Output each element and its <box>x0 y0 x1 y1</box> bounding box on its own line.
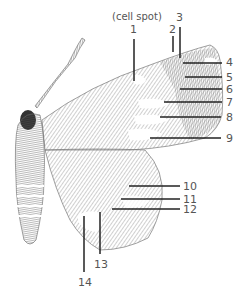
cell-spot-note: (cell spot) <box>112 11 162 22</box>
label-14: 14 <box>78 277 92 288</box>
label-8: 8 <box>226 112 233 123</box>
label-3: 3 <box>176 12 183 23</box>
label-12: 12 <box>183 204 197 215</box>
label-6: 6 <box>226 84 233 95</box>
label-9: 9 <box>226 133 233 144</box>
label-5: 5 <box>226 72 233 83</box>
label-4: 4 <box>226 57 233 68</box>
label-10: 10 <box>183 181 197 192</box>
label-1: 1 <box>130 24 137 35</box>
forewing <box>42 45 223 150</box>
moth-illustration <box>0 0 245 294</box>
label-2: 2 <box>169 24 176 35</box>
label-13: 13 <box>94 259 108 270</box>
moth-body <box>15 110 44 244</box>
label-7: 7 <box>226 97 233 108</box>
